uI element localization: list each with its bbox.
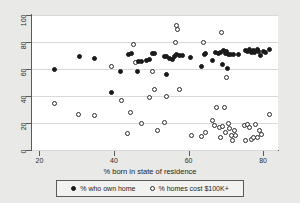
x-tick-80 xyxy=(263,151,264,156)
data-point xyxy=(92,56,97,61)
gridline-y-0 xyxy=(32,150,278,151)
data-point xyxy=(175,27,180,32)
legend-label-own-home: % who own home xyxy=(80,185,135,192)
data-point xyxy=(135,69,140,74)
x-tick-label-20: 20 xyxy=(29,157,49,164)
data-point xyxy=(152,51,157,56)
y-tick-40 xyxy=(26,96,32,97)
data-point xyxy=(201,40,206,45)
y-tick-100 xyxy=(26,15,32,16)
data-point xyxy=(147,57,152,62)
filled-circle-icon xyxy=(71,186,76,191)
x-tick-label-80: 80 xyxy=(253,157,273,164)
data-point xyxy=(236,52,241,57)
y-tick-20 xyxy=(26,123,32,124)
data-point xyxy=(162,120,167,125)
data-point xyxy=(199,64,204,69)
y-tick-label-100: 100 xyxy=(20,15,27,35)
y-tick-label-80: 80 xyxy=(20,42,27,62)
chart-legend: % who own home % homes cost $100K+ xyxy=(56,180,244,197)
gridline-y-100 xyxy=(32,15,278,16)
gridline-y-80 xyxy=(32,42,278,43)
legend-item-home-cost: % homes cost $100K+ xyxy=(150,185,229,192)
data-point xyxy=(247,125,252,130)
data-point xyxy=(131,42,136,47)
data-point xyxy=(225,66,230,71)
y-tick-label-60: 60 xyxy=(20,69,27,89)
data-point xyxy=(92,113,97,118)
y-tick-label-40: 40 xyxy=(20,96,27,116)
data-point xyxy=(227,126,232,131)
data-point xyxy=(210,58,215,63)
data-point xyxy=(109,64,114,69)
x-tick-label-60: 60 xyxy=(179,157,199,164)
data-point xyxy=(222,105,227,110)
y-tick-60 xyxy=(26,69,32,70)
legend-label-home-cost: % homes cost $100K+ xyxy=(159,185,229,192)
gridline-y-60 xyxy=(32,69,278,70)
data-point xyxy=(125,131,130,136)
x-tick-40 xyxy=(114,151,115,156)
data-point xyxy=(173,40,178,45)
open-circle-icon xyxy=(150,186,155,191)
data-point xyxy=(203,130,208,135)
x-tick-20 xyxy=(39,151,40,156)
data-point xyxy=(233,133,238,138)
data-point xyxy=(226,121,231,126)
chart-figure: 020406080100 20406080 % born in state of… xyxy=(0,0,300,203)
data-point xyxy=(189,133,194,138)
x-tick-label-40: 40 xyxy=(104,157,124,164)
data-point xyxy=(267,47,272,52)
y-tick-0 xyxy=(26,150,32,151)
data-point xyxy=(77,54,82,59)
legend-item-own-home: % who own home xyxy=(71,185,135,192)
y-tick-80 xyxy=(26,42,32,43)
x-tick-60 xyxy=(189,151,190,156)
y-tick-label-20: 20 xyxy=(20,123,27,143)
gridline-y-40 xyxy=(32,96,278,97)
x-axis-title: % born in state of residence xyxy=(0,167,300,176)
data-point xyxy=(119,98,124,103)
